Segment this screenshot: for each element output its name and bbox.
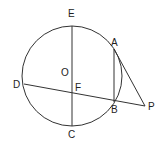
- label-f: F: [75, 82, 81, 93]
- label-b: B: [111, 104, 118, 115]
- label-e: E: [68, 8, 75, 19]
- label-a: A: [111, 37, 118, 48]
- segment-ap: [114, 49, 145, 106]
- label-o: O: [61, 67, 69, 78]
- segment-dp: [24, 84, 145, 106]
- label-p: P: [148, 101, 155, 112]
- label-c: C: [68, 129, 75, 140]
- label-d: D: [13, 79, 20, 90]
- geometry-diagram: E A O D F B P C: [0, 0, 166, 148]
